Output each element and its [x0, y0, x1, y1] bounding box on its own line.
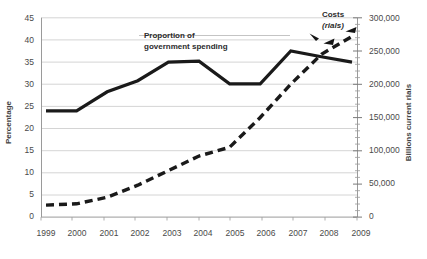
- chart-container: Percentage Billions current rials 45 40 …: [0, 0, 427, 259]
- proportion-annotation-line2: government spending: [144, 42, 228, 53]
- costs-annotation-line1: Costs: [312, 10, 354, 21]
- proportion-annotation-line1: Proportion of: [144, 31, 228, 42]
- costs-annotation-line2: (rials): [312, 21, 354, 32]
- costs-annotation: Costs (rials): [312, 10, 354, 31]
- series-line-proportion: [46, 51, 352, 111]
- proportion-annotation: Proportion of government spending: [144, 31, 228, 52]
- x-axis-ticks: [41, 217, 357, 220]
